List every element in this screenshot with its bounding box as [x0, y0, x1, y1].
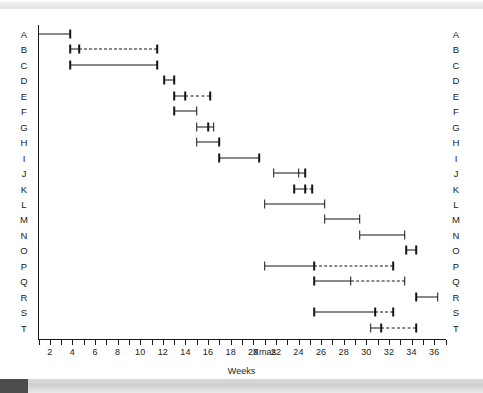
- task-bar-b-end-cap: [156, 45, 158, 54]
- task-bar-d-start-cap: [163, 76, 165, 85]
- task-bar-q-solid: [314, 281, 350, 282]
- x-tick-3: [61, 340, 62, 345]
- x-tick-26: [321, 340, 322, 345]
- row-label-left-k: K: [17, 183, 31, 194]
- task-bar-n-start-cap: [359, 230, 361, 239]
- x-tick-24: [299, 340, 300, 345]
- task-bar-s-mid-cap: [375, 308, 377, 317]
- gantt-chart: 2468101214161820Xmas2224262830323436 ABC…: [0, 0, 483, 393]
- x-tick-34: [412, 340, 413, 345]
- task-bar-b-mid-cap: [78, 45, 80, 54]
- x-tick-27: [332, 340, 333, 345]
- task-bar-e-dashed: [185, 95, 210, 96]
- task-bar-a-end-cap: [69, 30, 71, 39]
- x-tick-35: [423, 340, 424, 345]
- row-label-right-q: Q: [449, 276, 463, 287]
- row-label-right-t: T: [449, 322, 463, 333]
- x-tick-label-28: 28: [339, 347, 349, 357]
- x-tick-label-2: 2: [47, 347, 52, 357]
- x-tick-17: [219, 340, 220, 345]
- task-bar-p-start-cap: [264, 261, 266, 270]
- task-bar-b-start-cap: [69, 45, 71, 54]
- x-tick-label-24: 24: [293, 347, 303, 357]
- page-canvas: 2468101214161820Xmas2224262830323436 ABC…: [0, 0, 483, 393]
- task-bar-s-end-cap: [393, 308, 395, 317]
- task-bar-f-start-cap: [173, 107, 175, 116]
- task-bar-k-mid-cap: [305, 184, 307, 193]
- row-label-right-s: S: [449, 307, 463, 318]
- task-bar-h-start-cap: [196, 138, 198, 147]
- task-bar-o-start-cap: [405, 246, 407, 255]
- x-tick-label-26: 26: [316, 347, 326, 357]
- x-tick-36: [434, 340, 435, 345]
- x-tick-4: [72, 340, 73, 345]
- row-label-left-o: O: [17, 245, 31, 256]
- x-tick-13: [174, 340, 175, 345]
- x-tick-label-10: 10: [135, 347, 145, 357]
- task-bar-i-solid: [219, 157, 259, 158]
- task-bar-h-end-cap: [219, 138, 221, 147]
- task-bar-j-end-cap: [305, 169, 307, 178]
- x-tick-label-12: 12: [158, 347, 168, 357]
- task-bar-c-start-cap: [69, 60, 71, 69]
- task-bar-l-solid: [265, 203, 325, 204]
- task-bar-g-start-cap: [196, 122, 198, 131]
- task-bar-p-solid: [265, 265, 315, 266]
- task-bar-f-solid: [174, 111, 197, 112]
- bottom-left-marker: [0, 379, 28, 393]
- task-bar-t-dashed: [381, 327, 416, 328]
- task-bar-h-solid: [197, 142, 220, 143]
- x-tick-22: [276, 340, 277, 345]
- task-bar-r-end-cap: [437, 292, 439, 301]
- x-tick-30: [366, 340, 367, 345]
- task-bar-g-end-cap: [213, 122, 215, 131]
- row-label-right-n: N: [449, 229, 463, 240]
- x-tick-label-4: 4: [70, 347, 75, 357]
- row-label-left-t: T: [17, 322, 31, 333]
- row-label-right-i: I: [449, 152, 463, 163]
- task-bar-q-start-cap: [314, 277, 316, 286]
- x-tick-9: [129, 340, 130, 345]
- row-label-right-b: B: [449, 44, 463, 55]
- task-bar-k-end-cap: [311, 184, 313, 193]
- x-tick-label-32: 32: [384, 347, 394, 357]
- x-tick-11: [152, 340, 153, 345]
- x-tick-8: [118, 340, 119, 345]
- x-tick-20: [253, 340, 254, 345]
- row-label-left-d: D: [17, 75, 31, 86]
- row-label-left-m: M: [17, 214, 31, 225]
- x-tick-label-18: 18: [225, 347, 235, 357]
- x-tick-10: [140, 340, 141, 345]
- row-label-left-g: G: [17, 121, 31, 132]
- x-tick-18: [231, 340, 232, 345]
- row-label-left-p: P: [17, 260, 31, 271]
- x-tick-29: [355, 340, 356, 345]
- row-label-right-j: J: [449, 168, 463, 179]
- x-tick-5: [84, 340, 85, 345]
- row-label-right-o: O: [449, 245, 463, 256]
- task-bar-l-end-cap: [324, 199, 326, 208]
- row-label-right-e: E: [449, 90, 463, 101]
- y-axis-line: [38, 25, 39, 340]
- x-tick-2: [50, 340, 51, 345]
- task-bar-l-start-cap: [264, 199, 266, 208]
- x-tick-label-22: 22: [271, 347, 281, 357]
- row-label-left-b: B: [17, 44, 31, 55]
- task-bar-s-solid: [314, 312, 375, 313]
- row-label-left-q: Q: [17, 276, 31, 287]
- task-bar-q-mid-cap: [350, 277, 352, 286]
- task-bar-b-dashed: [79, 49, 157, 50]
- task-bar-s-start-cap: [314, 308, 316, 317]
- x-tick-33: [400, 340, 401, 345]
- x-tick-label-36: 36: [429, 347, 439, 357]
- x-tick-12: [163, 340, 164, 345]
- row-label-right-g: G: [449, 121, 463, 132]
- task-bar-e-end-cap: [210, 91, 212, 100]
- x-tick-31: [378, 340, 379, 345]
- row-label-right-a: A: [449, 29, 463, 40]
- x-tick-37: [446, 340, 447, 345]
- row-label-left-a: A: [17, 29, 31, 40]
- task-bar-m-end-cap: [359, 215, 361, 224]
- task-bar-p-mid-cap: [314, 261, 316, 270]
- task-bar-j-mid-cap: [298, 169, 300, 178]
